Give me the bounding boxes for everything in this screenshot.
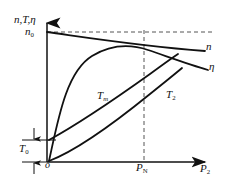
- pn-label: PN: [136, 162, 148, 173]
- t0-label: T0: [19, 143, 29, 154]
- curve-Tm-label: Tm: [97, 90, 108, 101]
- curve-eta-label: η: [209, 61, 214, 72]
- curve-Tm: [49, 54, 178, 140]
- n0-label: n0: [25, 26, 34, 37]
- motor-characteristic-curve-figure: n,T,η n0 T0 o PN P2 n η Tm T2: [0, 0, 228, 192]
- curve-Tm-label-sub: m: [103, 95, 108, 102]
- n0-label-base: n: [25, 25, 31, 37]
- x-axis-label: P2: [200, 163, 210, 174]
- curve-n: [47, 32, 205, 51]
- chart-canvas: [0, 0, 228, 192]
- pn-label-base: P: [136, 161, 143, 173]
- curve-n-label: n: [206, 41, 212, 52]
- n0-label-sub: 0: [31, 31, 34, 38]
- t0-label-sub: 0: [25, 148, 28, 155]
- curve-eta: [49, 46, 208, 161]
- x-axis-label-sub: 2: [207, 168, 210, 175]
- y-axis-label: n,T,η: [14, 14, 36, 25]
- pn-label-sub: N: [143, 167, 148, 174]
- origin-label: o: [45, 160, 50, 170]
- curve-T2: [49, 68, 182, 161]
- curve-T2-label-sub: 2: [172, 94, 175, 101]
- curve-T2-label: T2: [166, 89, 176, 100]
- x-axis-label-base: P: [200, 162, 207, 174]
